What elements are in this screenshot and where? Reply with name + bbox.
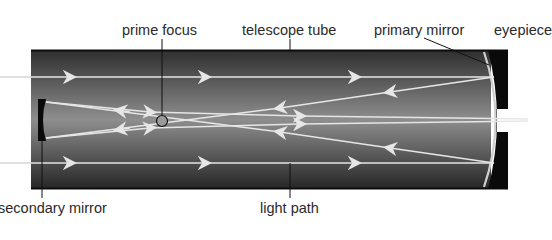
- incoming-rays: [0, 77, 31, 163]
- label-primary-mirror: primary mirror: [374, 22, 464, 38]
- label-prime-focus: prime focus: [122, 22, 197, 38]
- label-eyepiece: eyepiece: [494, 22, 552, 38]
- label-light-path: light path: [260, 200, 319, 216]
- label-telescope-tube: telescope tube: [242, 22, 336, 38]
- prime-focus-marker: [157, 116, 168, 127]
- telescope-tube: [31, 50, 491, 189]
- label-secondary-mirror: secondary mirror: [0, 200, 107, 216]
